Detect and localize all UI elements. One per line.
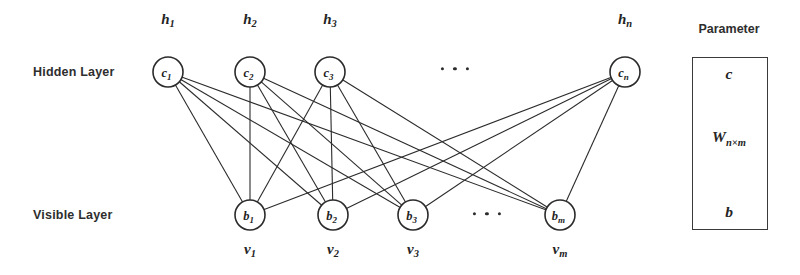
hidden-unit-label-h2: h2 bbox=[243, 11, 257, 29]
hidden-unit-label-h1: h1 bbox=[161, 11, 175, 29]
rbm-diagram: c1c2c3cnb1b2b3bm Hidden Layer Visible La… bbox=[0, 0, 800, 275]
network-nodes: c1c2c3cnb1b2b3bm bbox=[153, 57, 640, 230]
connection-edge bbox=[337, 84, 406, 203]
network-graphic: c1c2c3cnb1b2b3bm bbox=[0, 0, 800, 275]
visible-node-bm: bm bbox=[545, 200, 575, 230]
hidden-node-c2: c2 bbox=[235, 57, 265, 87]
connection-edge bbox=[345, 78, 612, 209]
hidden-layer-label: Hidden Layer bbox=[33, 65, 115, 79]
visible-node-b2: b2 bbox=[318, 200, 348, 230]
visible-node-b3: b3 bbox=[398, 200, 428, 230]
connection-edge bbox=[342, 79, 549, 207]
parameter-entry-c: c bbox=[726, 65, 733, 83]
visible-layer-label: Visible Layer bbox=[33, 208, 113, 222]
parameter-entry-b: b bbox=[725, 203, 733, 221]
connection-edge bbox=[263, 77, 612, 210]
connection-edge bbox=[566, 85, 620, 203]
connection-edge bbox=[175, 84, 243, 203]
visible-unit-label-v3: v3 bbox=[407, 241, 419, 259]
visible-node-b1: b1 bbox=[235, 200, 265, 230]
visible-unit-label-v1: v1 bbox=[244, 241, 256, 259]
connection-edge bbox=[424, 80, 613, 208]
hidden-node-c1: c1 bbox=[153, 57, 183, 87]
parameter-entry-W: Wn×m bbox=[712, 128, 746, 147]
connection-edges bbox=[175, 77, 619, 211]
connection-edge bbox=[263, 78, 548, 209]
hidden-unit-label-h3: h3 bbox=[323, 11, 337, 29]
hidden-node-c3: c3 bbox=[315, 57, 345, 87]
hidden-unit-label-hn: hn bbox=[618, 11, 632, 29]
parameter-panel-title: Parameter bbox=[698, 22, 759, 36]
visible-unit-label-v2: v2 bbox=[327, 241, 339, 259]
visible-unit-label-vm: vm bbox=[553, 241, 568, 259]
visible-layer-ellipsis-icon bbox=[473, 212, 501, 215]
hidden-node-cn: cn bbox=[610, 57, 640, 87]
hidden-layer-ellipsis-icon bbox=[441, 67, 469, 70]
